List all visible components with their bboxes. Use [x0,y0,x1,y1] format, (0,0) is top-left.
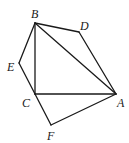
label-C: C [22,96,31,110]
segment-BA [35,23,116,94]
segment-BE [19,23,35,63]
label-F: F [46,129,55,143]
segment-EC [19,63,35,94]
segment-BD [35,23,79,32]
label-B: B [31,7,39,21]
label-A: A [116,96,125,110]
segment-FA [51,94,116,125]
edges [19,23,116,125]
segment-CF [35,94,51,125]
label-E: E [6,60,15,74]
geometry-figure: A B C D E F [0,0,129,143]
segment-DA [79,32,116,94]
label-D: D [79,19,89,33]
vertex-labels: A B C D E F [6,7,125,143]
